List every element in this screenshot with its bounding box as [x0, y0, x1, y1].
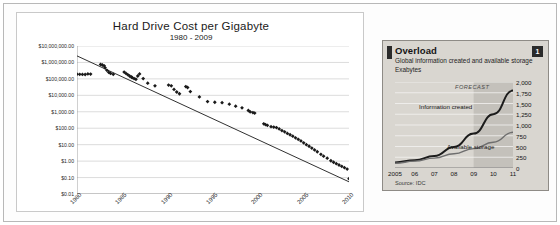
overload-y-tick-label: 750 [516, 132, 526, 139]
hard-drive-y-axis-labels: $10,000,000.00$1,000,000.00$100,000.00$1… [17, 46, 74, 194]
overload-badge: 1 [532, 46, 543, 57]
overload-x-axis-labels: 2005060708091011 [395, 170, 517, 180]
overload-x-tick-label: 10 [490, 170, 497, 177]
hard-drive-y-tick-label: $0.10 [61, 175, 74, 181]
overload-x-tick-label: 07 [431, 170, 438, 177]
overload-y-tick-label: 1,250 [516, 111, 531, 118]
hard-drive-y-tick-label: $1.00 [61, 158, 74, 164]
hard-drive-x-axis-labels: 1980198519901995200020052010 [77, 196, 367, 220]
hard-drive-y-tick-label: $1,000.00 [51, 109, 74, 115]
overload-source-note: Source: IDC [395, 180, 425, 186]
overload-x-tick-label: 09 [470, 170, 477, 177]
overload-y-axis-labels: 2,0001,7501,5001,2501,0007505002500 [516, 82, 546, 168]
overload-x-tick-label: 2005 [388, 170, 402, 177]
overload-y-tick-label: 1,750 [516, 89, 531, 96]
overload-y-tick-label: 1,000 [516, 122, 531, 129]
overload-title: Overload [395, 45, 437, 56]
overload-x-tick-label: 11 [510, 170, 516, 177]
overload-y-tick-label: 2,000 [516, 79, 531, 86]
hard-drive-plot-area [77, 46, 349, 194]
overload-panel: Overload Global information created and … [382, 40, 549, 191]
overload-annotation: Information created [419, 103, 472, 110]
accent-bar-icon [387, 46, 392, 59]
screenshot-root: Hard Drive Cost per Gigabyte 1980 - 2009… [0, 0, 560, 225]
hard-drive-y-tick-label: $100.00 [56, 125, 74, 131]
overload-y-tick-label: 500 [516, 143, 526, 150]
hard-drive-chart-subtitle: 1980 - 2009 [17, 33, 365, 42]
hard-drive-cost-chart: Hard Drive Cost per Gigabyte 1980 - 2009… [16, 12, 364, 212]
overload-annotation: FORECAST [455, 84, 489, 90]
overload-y-tick-label: 250 [516, 154, 526, 161]
overload-plot-area [395, 82, 513, 168]
outer-frame: Hard Drive Cost per Gigabyte 1980 - 2009… [3, 3, 557, 222]
overload-plot-svg [395, 82, 513, 168]
hard-drive-y-tick-label: $10,000.00 [49, 92, 75, 98]
overload-subtitle: Global information created and available… [395, 57, 537, 65]
overload-y-tick-label: 1,500 [516, 100, 531, 107]
overload-x-tick-label: 08 [451, 170, 458, 177]
overload-annotation: Available storage [447, 143, 494, 150]
overload-x-tick-label: 06 [411, 170, 418, 177]
hard-drive-y-tick-label: $1,000,000.00 [41, 59, 74, 65]
hard-drive-chart-title: Hard Drive Cost per Gigabyte [17, 20, 365, 32]
hard-drive-plot-svg [77, 46, 349, 194]
hard-drive-y-tick-label: $100,000.00 [46, 76, 74, 82]
hard-drive-y-tick-label: $10.00 [58, 142, 74, 148]
overload-unit-label: Exabytes [395, 66, 421, 73]
hard-drive-y-tick-label: $10,000,000.00 [39, 43, 74, 49]
